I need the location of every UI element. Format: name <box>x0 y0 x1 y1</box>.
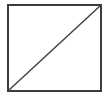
square-with-diagonal-figure <box>0 0 109 98</box>
figure-canvas <box>0 0 109 98</box>
